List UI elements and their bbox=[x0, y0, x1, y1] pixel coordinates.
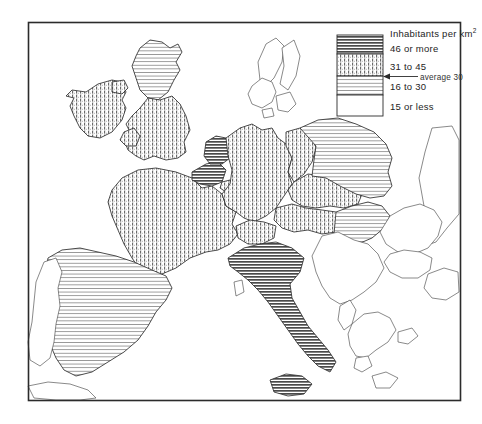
legend-swatch-stack bbox=[337, 35, 383, 116]
legend-title-text: Inhabitants per km bbox=[390, 28, 473, 39]
legend-swatch-31-to-45 bbox=[337, 54, 383, 76]
legend-title: Inhabitants per km2 bbox=[390, 27, 477, 39]
legend-label-16-to-30: 16 to 30 bbox=[390, 81, 426, 92]
map-canvas: Inhabitants per km2 46 or more 31 to 45 … bbox=[0, 0, 482, 424]
legend-title-superscript: 2 bbox=[473, 27, 477, 34]
legend-label-15-or-less: 15 or less bbox=[390, 101, 434, 112]
legend-label-31-to-45: 31 to 45 bbox=[390, 61, 426, 72]
country-switzerland bbox=[236, 220, 276, 244]
population-density-map: Inhabitants per km2 46 or more 31 to 45 … bbox=[0, 0, 482, 424]
legend-swatch-16-to-30 bbox=[337, 76, 383, 95]
legend-average-label: average 30 bbox=[420, 73, 463, 82]
legend-swatch-15-or-less bbox=[337, 95, 383, 116]
legend-label-46-or-more: 46 or more bbox=[390, 43, 438, 54]
legend-swatch-46-or-more bbox=[337, 35, 383, 54]
